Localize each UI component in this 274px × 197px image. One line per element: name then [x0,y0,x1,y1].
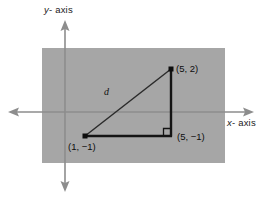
point-label-5-neg1: (5, −1) [177,131,205,142]
distance-label-d: d [104,86,109,97]
diagram-canvas [0,0,274,197]
x-axis-label: x- axis [227,117,256,128]
point-label-5-2: (5, 2) [176,63,198,74]
x-axis-label-variable: x [227,117,232,128]
vertex-dot-p1 [83,134,88,139]
point-label-1-neg1: (1, −1) [68,141,96,152]
y-axis-label-variable: y [44,4,49,15]
distance-formula-diagram: y- axis x- axis (5, 2) (5, −1) (1, −1) d [0,0,274,197]
y-axis-label: y- axis [44,4,73,15]
vertex-dot-p2 [169,67,174,72]
